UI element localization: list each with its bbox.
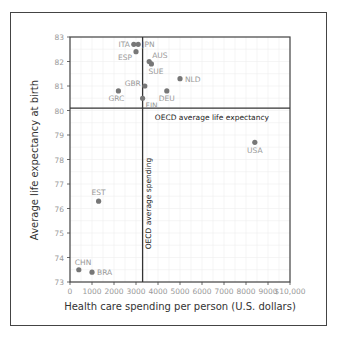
x-tick-label: 4000 bbox=[148, 287, 167, 296]
data-point-est bbox=[96, 199, 101, 204]
x-tick-label: $10,000 bbox=[274, 287, 305, 296]
data-label-usa: USA bbox=[247, 146, 263, 155]
y-tick-label: 79 bbox=[54, 131, 64, 140]
x-axis-title: Health care spending per person (U.S. do… bbox=[64, 301, 296, 312]
y-tick-label: 73 bbox=[54, 278, 64, 287]
x-tick-label: 8000 bbox=[236, 287, 255, 296]
data-label-aus: AUS bbox=[152, 51, 168, 60]
y-axis-title: Average life expectancy at birth bbox=[29, 80, 40, 240]
data-point-fin bbox=[140, 96, 145, 101]
y-tick-label: 80 bbox=[54, 107, 64, 116]
data-point-sue bbox=[149, 61, 154, 66]
scatter-chart: OECD average life expectancyOECD average… bbox=[0, 0, 339, 338]
y-tick-label: 75 bbox=[54, 229, 64, 238]
y-tick-label: 77 bbox=[54, 180, 64, 189]
data-label-est: EST bbox=[92, 188, 106, 197]
y-tick-label: 74 bbox=[54, 254, 64, 263]
data-label-fin: FIN bbox=[146, 101, 158, 110]
x-tick-label: 2000 bbox=[104, 287, 123, 296]
data-label-sue: SUE bbox=[148, 67, 163, 76]
data-point-gbr bbox=[142, 83, 147, 88]
data-point-grc bbox=[116, 88, 121, 93]
data-point-chn bbox=[76, 267, 81, 272]
data-point-deu bbox=[164, 88, 169, 93]
x-tick-label: 6000 bbox=[192, 287, 211, 296]
data-label-bra: BRA bbox=[97, 268, 113, 277]
x-tick-label: 7000 bbox=[214, 287, 233, 296]
x-tick-label: 3000 bbox=[126, 287, 145, 296]
data-label-chn: CHN bbox=[75, 258, 92, 267]
x-tick-label: 0 bbox=[68, 287, 73, 296]
y-tick-label: 76 bbox=[54, 205, 64, 214]
data-label-gbr: GBR bbox=[125, 79, 141, 88]
y-tick-label: 78 bbox=[54, 156, 64, 165]
oecd-life-expectancy-label: OECD average life expectancy bbox=[155, 113, 270, 122]
data-point-jpn bbox=[136, 42, 141, 47]
data-point-usa bbox=[252, 140, 257, 145]
data-label-grc: GRC bbox=[108, 94, 124, 103]
data-point-bra bbox=[89, 270, 94, 275]
y-tick-label: 82 bbox=[54, 58, 64, 67]
data-label-deu: DEU bbox=[159, 94, 175, 103]
y-tick-label: 81 bbox=[54, 82, 64, 91]
oecd-spending-label: OECD average spending bbox=[144, 158, 153, 250]
x-tick-label: 1000 bbox=[82, 287, 101, 296]
data-label-nld: NLD bbox=[185, 75, 201, 84]
y-tick-label: 83 bbox=[54, 33, 64, 42]
data-label-jpn: JPN bbox=[141, 40, 154, 49]
data-point-esp bbox=[133, 49, 138, 54]
data-point-nld bbox=[177, 76, 182, 81]
data-label-ita: ITA bbox=[118, 40, 130, 49]
x-tick-label: 5000 bbox=[170, 287, 189, 296]
data-label-esp: ESP bbox=[118, 53, 132, 62]
